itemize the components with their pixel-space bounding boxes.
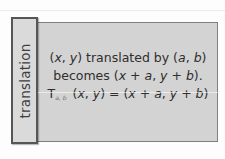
- subscript: a, b: [55, 94, 66, 101]
- definition-line-1: (x, y) translated by (a, b): [38, 49, 218, 67]
- definition-line-3-formula: Ta, b (x, y) = (x + a, y + b): [38, 85, 218, 107]
- label-tab: translation: [11, 17, 38, 144]
- label-text: translation: [17, 43, 33, 118]
- scan-artifact: [38, 92, 218, 93]
- definition-line-2: becomes (x + a, y + b).: [38, 67, 218, 85]
- top-rule: [0, 10, 225, 11]
- definition-content: (x, y) translated by (a, b) becomes (x +…: [38, 49, 218, 107]
